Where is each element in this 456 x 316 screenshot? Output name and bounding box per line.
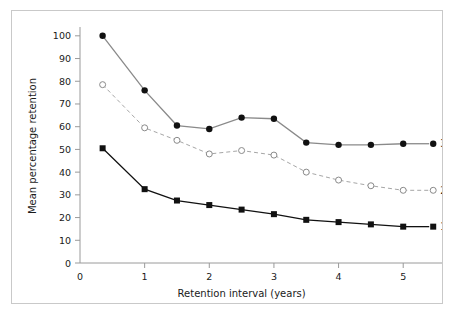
data-point[interactable] xyxy=(336,177,342,183)
y-tick-label: 0 xyxy=(65,258,71,269)
figure-frame: 0102030405060708090100012345Retention in… xyxy=(11,10,443,304)
data-point[interactable] xyxy=(368,221,374,227)
data-point[interactable] xyxy=(303,169,309,175)
x-tick-label: 3 xyxy=(271,271,277,282)
series-3-cues: 3 cues xyxy=(99,33,442,150)
data-point[interactable] xyxy=(336,219,342,225)
x-tick-label: 4 xyxy=(336,271,342,282)
data-point[interactable] xyxy=(239,148,245,154)
y-tick-label: 60 xyxy=(59,121,71,132)
x-tick-label: 0 xyxy=(77,271,83,282)
data-point[interactable] xyxy=(238,114,244,120)
y-tick-label: 10 xyxy=(59,235,71,246)
series-line xyxy=(103,148,404,226)
data-point[interactable] xyxy=(271,211,277,217)
data-point[interactable] xyxy=(368,183,374,189)
data-point[interactable] xyxy=(400,224,406,230)
legend-label-3-cues: 3 cues xyxy=(440,138,442,149)
data-point[interactable] xyxy=(303,217,309,223)
y-tick-label: 90 xyxy=(59,53,71,64)
y-tick-label: 70 xyxy=(59,98,71,109)
series-2-cues: 2 cues xyxy=(100,82,442,196)
data-point[interactable] xyxy=(141,87,147,93)
x-tick-label: 5 xyxy=(400,271,406,282)
legend-label-2-cues: 2 cues xyxy=(440,185,442,196)
data-point[interactable] xyxy=(303,139,309,145)
legend-label-1-cue: 1 cue xyxy=(440,221,442,232)
y-axis-title: Mean percentage retention xyxy=(27,78,38,214)
legend-marker xyxy=(430,187,436,193)
data-point[interactable] xyxy=(271,116,277,122)
y-tick-label: 20 xyxy=(59,212,71,223)
x-tick-label: 2 xyxy=(206,271,212,282)
data-point[interactable] xyxy=(271,152,277,158)
data-point[interactable] xyxy=(174,198,180,204)
data-point[interactable] xyxy=(142,186,148,192)
x-axis-title: Retention interval (years) xyxy=(178,288,306,299)
data-point[interactable] xyxy=(239,207,245,213)
data-point[interactable] xyxy=(100,145,106,151)
data-point[interactable] xyxy=(206,202,212,208)
retention-line-chart: 0102030405060708090100012345Retention in… xyxy=(12,11,442,303)
data-point[interactable] xyxy=(174,137,180,143)
y-tick-label: 30 xyxy=(59,189,71,200)
legend-marker xyxy=(430,224,436,230)
series-line xyxy=(103,85,404,191)
legend-marker xyxy=(430,141,436,147)
data-point[interactable] xyxy=(174,122,180,128)
data-point[interactable] xyxy=(400,187,406,193)
y-tick-label: 100 xyxy=(53,30,71,41)
data-point[interactable] xyxy=(368,142,374,148)
y-tick-label: 80 xyxy=(59,76,71,87)
data-point[interactable] xyxy=(400,141,406,147)
data-point[interactable] xyxy=(100,82,106,88)
data-point[interactable] xyxy=(335,142,341,148)
data-point[interactable] xyxy=(206,151,212,157)
x-tick-label: 1 xyxy=(142,271,148,282)
data-point[interactable] xyxy=(99,33,105,39)
data-point[interactable] xyxy=(206,126,212,132)
data-point[interactable] xyxy=(142,125,148,131)
y-tick-label: 50 xyxy=(59,144,71,155)
y-tick-label: 40 xyxy=(59,167,71,178)
